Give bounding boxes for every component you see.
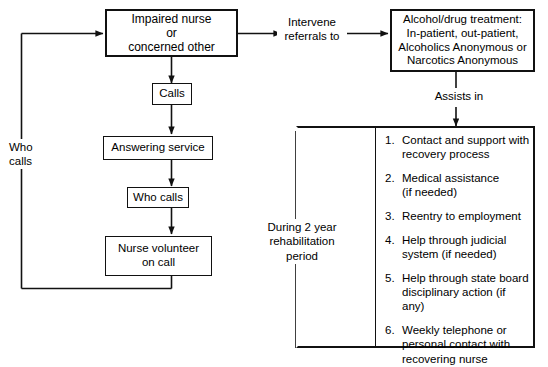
list-item-text: Contact and support with recovery proces… xyxy=(402,133,531,162)
edge-label-assists-in: Assists in xyxy=(428,88,490,104)
list-item-text: Help through judicial system (if needed) xyxy=(402,233,531,262)
node-impaired-nurse: Impaired nurse or concerned other xyxy=(105,9,238,57)
list-item-number: 4. xyxy=(385,233,402,262)
list-item: 4. Help through judicial system (if need… xyxy=(385,233,531,262)
list-item-number: 6. xyxy=(385,323,402,366)
period-label: During 2 year rehabilitation period xyxy=(262,219,342,264)
edge-label-intervene-referrals: Intervene referrals to xyxy=(277,14,347,44)
list-item-text: Reentry to employment xyxy=(402,209,531,223)
node-calls: Calls xyxy=(152,83,192,105)
panel-cell-divider xyxy=(375,128,377,346)
edge-label-who-calls-loop: Who calls xyxy=(6,139,46,169)
outcomes-list: 1. Contact and support with recovery pro… xyxy=(385,133,531,366)
node-who-calls: Who calls xyxy=(127,187,189,208)
list-item-number: 3. xyxy=(385,209,402,223)
node-nurse-volunteer: Nurse volunteer on call xyxy=(105,236,212,276)
list-item: 3. Reentry to employment xyxy=(385,209,531,223)
node-treatment: Alcohol/drug treatment: In-patient, out-… xyxy=(390,9,535,72)
list-item-text: Medical assistance (if needed) xyxy=(402,171,531,200)
list-item: 1. Contact and support with recovery pro… xyxy=(385,133,531,162)
list-item-number: 2. xyxy=(385,171,402,200)
list-item: 5. Help through state board disciplinary… xyxy=(385,271,531,314)
list-item-number: 5. xyxy=(385,271,402,314)
list-item-number: 1. xyxy=(385,133,402,162)
list-item-text: Weekly telephone or personal contact wit… xyxy=(402,323,531,366)
list-item: 6. Weekly telephone or personal contact … xyxy=(385,323,531,366)
flowchart-canvas: Impaired nurse or concerned other Calls … xyxy=(0,0,548,367)
list-item-text: Help through state board disciplinary ac… xyxy=(402,271,531,314)
list-item: 2. Medical assistance (if needed) xyxy=(385,171,531,200)
node-answering-service: Answering service xyxy=(103,136,213,160)
